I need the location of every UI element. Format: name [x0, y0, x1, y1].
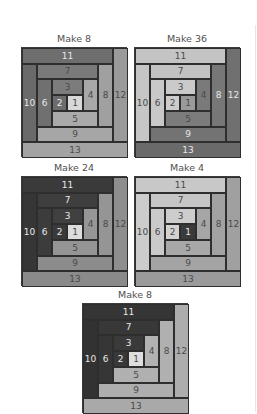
- strip-12: 12: [226, 48, 241, 142]
- strip-5: 5: [113, 367, 159, 383]
- strip-1: 1: [67, 95, 83, 111]
- strip-1: 1: [180, 95, 196, 111]
- strip-2: 2: [52, 95, 67, 111]
- strip-3: 3: [165, 208, 196, 224]
- strip-3: 3: [52, 79, 83, 95]
- quilt-block-a: Make 812345678910111213: [21, 33, 127, 157]
- strip-4: 4: [83, 208, 98, 240]
- strip-9: 9: [37, 256, 113, 271]
- strip-4: 4: [196, 208, 211, 240]
- strip-7: 7: [37, 193, 98, 208]
- log-cabin-block: 12345678910111213: [21, 176, 127, 286]
- strip-6: 6: [150, 79, 165, 127]
- strip-10: 10: [135, 193, 150, 271]
- strip-5: 5: [165, 111, 211, 127]
- block-title: Make 36: [134, 33, 240, 44]
- strip-10: 10: [83, 320, 98, 398]
- strip-7: 7: [37, 64, 98, 79]
- strip-7: 7: [98, 320, 159, 335]
- log-cabin-block: 12345678910111213: [21, 47, 127, 157]
- strip-9: 9: [150, 256, 226, 271]
- strip-2: 2: [165, 224, 180, 240]
- strip-3: 3: [113, 335, 144, 351]
- strip-4: 4: [196, 79, 211, 111]
- strip-4: 4: [83, 79, 98, 111]
- strip-10: 10: [22, 193, 37, 271]
- strip-8: 8: [98, 64, 113, 127]
- strip-10: 10: [135, 64, 150, 142]
- strip-11: 11: [135, 48, 226, 64]
- strip-10: 10: [22, 64, 37, 142]
- strip-3: 3: [165, 79, 196, 95]
- strip-9: 9: [150, 127, 226, 142]
- strip-11: 11: [135, 177, 226, 193]
- strip-7: 7: [150, 64, 211, 79]
- strip-12: 12: [113, 177, 128, 271]
- strip-12: 12: [226, 177, 241, 271]
- quilt-block-c: Make 2412345678910111213: [21, 162, 127, 286]
- strip-11: 11: [22, 48, 113, 64]
- log-cabin-block: 12345678910111213: [82, 303, 188, 413]
- strip-5: 5: [52, 240, 98, 256]
- strip-6: 6: [37, 79, 52, 127]
- block-title: Make 24: [21, 162, 127, 173]
- strip-13: 13: [135, 142, 241, 158]
- strip-6: 6: [37, 208, 52, 256]
- strip-4: 4: [144, 335, 159, 367]
- block-title: Make 8: [21, 33, 127, 44]
- strip-1: 1: [67, 224, 83, 240]
- quilt-block-e: Make 812345678910111213: [82, 289, 188, 413]
- strip-11: 11: [83, 304, 174, 320]
- strip-9: 9: [98, 383, 174, 398]
- strip-13: 13: [22, 271, 128, 287]
- strip-3: 3: [52, 208, 83, 224]
- strip-1: 1: [180, 224, 196, 240]
- strip-5: 5: [165, 240, 211, 256]
- strip-5: 5: [52, 111, 98, 127]
- strip-12: 12: [174, 304, 189, 398]
- quilt-block-b: Make 3612345678910111213: [134, 33, 240, 157]
- strip-7: 7: [150, 193, 211, 208]
- strip-8: 8: [98, 193, 113, 256]
- page-divider: [255, 25, 256, 412]
- strip-9: 9: [37, 127, 113, 142]
- strip-6: 6: [150, 208, 165, 256]
- strip-13: 13: [83, 398, 189, 414]
- strip-13: 13: [135, 271, 241, 287]
- strip-8: 8: [211, 64, 226, 127]
- strip-12: 12: [113, 48, 128, 142]
- log-cabin-block: 12345678910111213: [134, 176, 240, 286]
- strip-11: 11: [22, 177, 113, 193]
- strip-8: 8: [211, 193, 226, 256]
- strip-1: 1: [128, 351, 144, 367]
- strip-13: 13: [22, 142, 128, 158]
- strip-6: 6: [98, 335, 113, 383]
- log-cabin-block: 12345678910111213: [134, 47, 240, 157]
- strip-2: 2: [113, 351, 128, 367]
- block-title: Make 4: [134, 162, 240, 173]
- block-title: Make 8: [82, 289, 188, 300]
- strip-8: 8: [159, 320, 174, 383]
- strip-2: 2: [165, 95, 180, 111]
- quilt-block-d: Make 412345678910111213: [134, 162, 240, 286]
- strip-2: 2: [52, 224, 67, 240]
